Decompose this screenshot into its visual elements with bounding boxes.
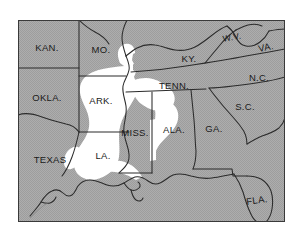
state-label-north-carolina: N.C. <box>249 72 269 83</box>
state-label-tennessee: TENN. <box>159 80 189 91</box>
state-label-missouri: MO. <box>92 44 111 55</box>
highlight-delta-neck <box>118 44 135 66</box>
state-label-mississippi: MISS. <box>121 127 148 138</box>
state-label-arkansas: ARK. <box>89 95 112 106</box>
state-label-oklahoma: OKLA. <box>32 92 62 103</box>
region-map: KAN. MO. KY. W.V. VA. OKLA. ARK. TENN. N… <box>0 0 293 232</box>
state-label-south-carolina: S.C. <box>235 101 255 112</box>
reference-map-figure: KAN. MO. KY. W.V. VA. OKLA. ARK. TENN. N… <box>0 0 293 232</box>
state-label-alabama: ALA. <box>163 124 185 135</box>
state-label-texas: TEXAS <box>34 154 67 165</box>
state-label-kentucky: KY. <box>182 53 197 64</box>
state-label-louisiana: LA. <box>95 150 110 161</box>
state-label-georgia: GA. <box>205 123 222 134</box>
state-label-kansas: KAN. <box>35 42 58 53</box>
highlight-al-ms-strip <box>150 119 156 161</box>
